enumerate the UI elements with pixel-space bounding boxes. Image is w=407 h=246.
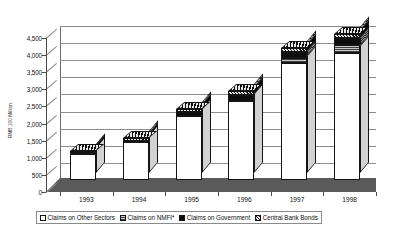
bar-segment [281, 48, 307, 52]
x-tick-mark [218, 192, 219, 196]
x-tick-label: 1993 [79, 196, 94, 203]
bar-segment [334, 34, 360, 38]
x-tick-label: 1997 [290, 196, 305, 203]
bar-segment-side [254, 84, 263, 173]
bar-1997 [281, 26, 307, 180]
bar-segment [228, 95, 254, 101]
legend-swatch [179, 215, 185, 221]
bar-segment-side [202, 98, 211, 173]
bar-segment [123, 138, 149, 141]
bar-segment [70, 151, 96, 153]
bar-segment [123, 141, 149, 143]
x-tick-label: 1994 [132, 196, 147, 203]
y-axis: RMB 100 Million 05001,0001,5002,0002,500… [0, 26, 42, 192]
bar-segment [228, 91, 254, 95]
y-tick-label: 4,500 [27, 35, 42, 42]
bar-segment-side [360, 35, 369, 173]
bar-segment [176, 112, 202, 116]
legend-label: Claims on Other Sectors [48, 214, 115, 221]
x-tick-mark [165, 192, 166, 196]
legend-item[interactable]: Claims on Government [179, 214, 250, 221]
x-tick-label: 1998 [342, 196, 357, 203]
x-tick-label: 1995 [184, 196, 199, 203]
y-tick-label: 1,000 [27, 154, 42, 161]
y-axis-title: RMB 100 Million [8, 89, 13, 153]
y-tick-label: 3,000 [27, 86, 42, 93]
x-axis: 199319941995199619971998 [46, 196, 376, 208]
bars-layer [60, 26, 376, 180]
y-tick-label: 4,000 [27, 52, 42, 59]
x-tick-label: 1996 [237, 196, 252, 203]
y-tick-label: 500 [32, 171, 42, 178]
bar-segment [334, 38, 360, 45]
chart-legend: Claims on Other SectorsClaims on NMFI*Cl… [36, 211, 322, 224]
x-tick-mark [376, 192, 377, 196]
bar-segment [334, 45, 360, 53]
bar-segment [334, 53, 360, 180]
y-tick-label: 1,500 [27, 137, 42, 144]
legend-label: Claims on NMFI* [127, 214, 174, 221]
x-tick-mark [271, 192, 272, 196]
floor [46, 178, 376, 192]
bar-segment [176, 109, 202, 112]
bar-1998 [334, 26, 360, 180]
bar-1995 [176, 26, 202, 180]
legend-item[interactable]: Claims on NMFI* [120, 214, 174, 221]
bar-segment [228, 101, 254, 180]
y-axis-line [46, 38, 47, 192]
legend-label: Claims on Government [187, 214, 250, 221]
bar-segment-side [307, 45, 316, 173]
bar-1994 [123, 26, 149, 180]
x-tick-mark [113, 192, 114, 196]
bar-1993 [70, 26, 96, 180]
legend-item[interactable]: Central Bank Bonds [255, 214, 318, 221]
bar-segment [70, 154, 96, 180]
legend-label: Central Bank Bonds [263, 214, 318, 221]
legend-swatch [40, 215, 46, 221]
bar-segment [70, 153, 96, 155]
bar-segment [281, 63, 307, 180]
bar-segment [281, 58, 307, 63]
bar-segment [281, 52, 307, 58]
legend-swatch [120, 215, 126, 221]
stacked-column-chart: RMB 100 Million 05001,0001,5002,0002,500… [0, 0, 407, 246]
bar-segment [123, 142, 149, 180]
bar-segment [176, 116, 202, 180]
x-tick-mark [60, 192, 61, 196]
y-tick-label: 2,000 [27, 120, 42, 127]
x-tick-mark [323, 192, 324, 196]
y-tick-label: 2,500 [27, 103, 42, 110]
bar-1996 [228, 26, 254, 180]
y-tick-label: 3,500 [27, 69, 42, 76]
legend-item[interactable]: Claims on Other Sectors [40, 214, 115, 221]
legend-swatch [255, 215, 261, 221]
